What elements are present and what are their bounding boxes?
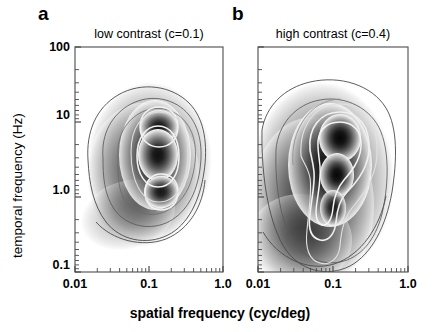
x-tick-label-b-1.0: 1.0 [386, 277, 430, 291]
panel-title-low-contrast: low contrast (c=0.1) [75, 27, 223, 41]
y-tick-label-100: 100 [30, 40, 70, 54]
y-tick-label-10: 10 [30, 108, 70, 122]
y-tick-label-0.1: 0.1 [26, 258, 70, 272]
panel-title-high-contrast: high contrast (c=0.4) [258, 27, 408, 41]
figure-root: a b low contrast (c=0.1) high contrast (… [0, 0, 440, 332]
panel-letter-a: a [38, 3, 48, 25]
x-tick-label-a-0.1: 0.1 [127, 277, 171, 291]
panel-b-axes [258, 47, 408, 272]
x-tick-label-b-0.01: 0.01 [236, 277, 280, 291]
y-tick-label-1: 1.0 [26, 183, 70, 197]
x-axis-title: spatial frequency (cyc/deg) [0, 305, 440, 321]
panel-b-heatmap [248, 47, 408, 293]
panel-letter-b: b [232, 3, 243, 25]
panel-a-heatmap [72, 47, 223, 272]
x-tick-label-b-0.1: 0.1 [311, 277, 355, 291]
y-axis-title: temporal frequency (Hz) [10, 113, 25, 258]
x-tick-label-a-0.01: 0.01 [53, 277, 97, 291]
panel-a-axes [75, 47, 223, 272]
